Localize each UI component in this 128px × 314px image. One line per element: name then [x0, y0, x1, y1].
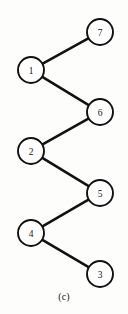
edge-layer	[41, 38, 90, 268]
graph-node-1[interactable]: 1	[18, 57, 44, 83]
graph-diagram: 7162543	[0, 0, 128, 314]
graph-node-label-7: 7	[98, 28, 103, 38]
graph-node-4[interactable]: 4	[18, 220, 44, 246]
graph-edge-2-5	[41, 157, 90, 187]
figure-caption: (c)	[0, 291, 128, 302]
graph-node-label-4: 4	[29, 229, 34, 239]
figure-container: 7162543 (c)	[0, 0, 128, 314]
graph-node-3[interactable]: 3	[87, 261, 113, 287]
graph-node-label-2: 2	[29, 147, 34, 157]
graph-edge-4-3	[41, 239, 90, 268]
graph-node-6[interactable]: 6	[87, 99, 113, 125]
graph-edge-1-6	[41, 76, 90, 106]
graph-node-label-3: 3	[98, 270, 103, 280]
graph-node-label-6: 6	[98, 108, 103, 118]
graph-node-label-1: 1	[29, 66, 34, 76]
graph-edge-1-7	[41, 38, 89, 65]
graph-edge-5-4	[41, 199, 90, 227]
node-layer: 7162543	[18, 19, 113, 287]
graph-node-label-5: 5	[98, 189, 103, 199]
graph-node-5[interactable]: 5	[87, 180, 113, 206]
graph-node-2[interactable]: 2	[18, 138, 44, 164]
graph-node-7[interactable]: 7	[87, 19, 113, 45]
graph-edge-6-2	[41, 118, 89, 145]
